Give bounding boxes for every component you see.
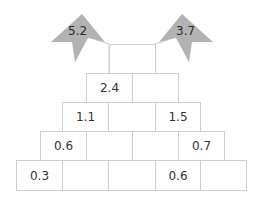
left-flag-value: 5.2 <box>68 24 87 38</box>
pyramid-cell-r5-c4[interactable]: 0.6 <box>155 160 201 191</box>
left-flag-icon <box>51 14 105 62</box>
pyramid-cell-r3-c1[interactable]: 1.1 <box>62 102 109 132</box>
pyramid-cell-r5-c2[interactable] <box>62 160 109 191</box>
pyramid-cell-r5-c1[interactable]: 0.3 <box>16 160 63 191</box>
pyramid-cell-r5-c3[interactable] <box>108 160 156 191</box>
right-flag-icon <box>159 14 213 62</box>
pyramid-cell-r3-c2[interactable] <box>108 102 156 132</box>
pyramid-cell-r4-c4[interactable]: 0.7 <box>178 131 225 161</box>
pyramid-cell-r4-c3[interactable] <box>132 131 179 161</box>
right-flag-value: 3.7 <box>176 24 195 38</box>
pyramid-cell-r3-c3[interactable]: 1.5 <box>155 102 201 132</box>
pyramid-cell-r4-c1[interactable]: 0.6 <box>40 131 87 161</box>
pyramid-cell-r2-c2[interactable] <box>132 73 179 103</box>
pyramid-cell-r1-c1[interactable] <box>109 44 156 74</box>
pyramid-cell-r2-c1[interactable]: 2.4 <box>86 73 133 103</box>
pyramid-cell-r5-c5[interactable] <box>200 160 247 191</box>
pyramid-cell-r4-c2[interactable] <box>86 131 133 161</box>
